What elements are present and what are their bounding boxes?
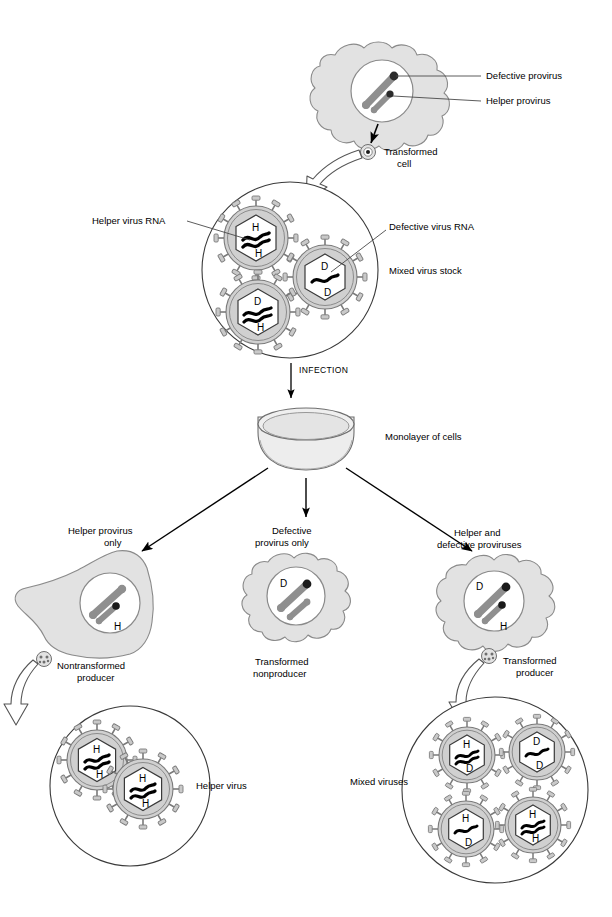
mixed-virus-stock-group: H H D D: [92, 182, 475, 358]
nontransformed-producer-group: Helper provirus only H Nontransformed: [4, 525, 153, 725]
label-nontransformed-producer-line1: Nontransformed: [57, 660, 125, 671]
label-defective-provirus-only-line2: provirus only: [255, 537, 309, 548]
mixed-viruses-pool-group: H D D D: [350, 697, 588, 883]
petri-dish-monolayer: [263, 413, 349, 440]
petri-dish-group: Monolayer of cells: [258, 408, 462, 470]
virion-label-top: H: [463, 739, 470, 750]
virion-label-bottom: H: [532, 833, 539, 844]
label-mixed-viruses: Mixed viruses: [350, 776, 408, 787]
virion-label-top: H: [139, 773, 146, 784]
virion-label-top: H: [462, 813, 469, 824]
helper-virus-pool-group: H H H H: [50, 706, 247, 866]
label-helper-virus-rna: Helper virus RNA: [92, 215, 166, 226]
label-helper-provirus: Helper provirus: [486, 95, 551, 106]
label-defective-virus-rna: Defective virus RNA: [389, 221, 475, 232]
hollow-arrow-left-producer-to-pool: [4, 660, 38, 725]
label-transformed-producer-line1: Transformed: [503, 655, 557, 666]
label-transformed-nonproducer-line1: Transformed: [255, 656, 309, 667]
nucleus-label-defective-middle: D: [280, 578, 287, 589]
label-transformed-nonproducer-line2: nonproducer: [253, 668, 306, 679]
label-helper-provirus-only-line1: Helper provirus: [68, 525, 133, 536]
virion-label-bottom: H: [96, 769, 103, 780]
nucleus-label-helper-left: H: [114, 621, 121, 632]
virion-label-bottom: D: [324, 287, 331, 298]
transformed-nonproducer-group: Defective provirus only D Transformed no…: [242, 525, 350, 679]
transformed-cell-group: Defective provirus Helper provirus Trans…: [310, 42, 562, 169]
label-helper-and-defective-line1: Helper and: [454, 527, 500, 538]
virion-label-top: H: [529, 809, 536, 820]
virion-label-bottom: D: [465, 837, 472, 848]
nucleus-label-helper-right: H: [500, 621, 507, 632]
budding-virion: [361, 145, 376, 160]
retrovirus-replication-diagram: Defective provirus Helper provirus Trans…: [0, 0, 612, 917]
virion-label-bottom: H: [257, 322, 264, 333]
label-monolayer-of-cells: Monolayer of cells: [385, 431, 462, 442]
label-defective-provirus-only-line1: Defective: [272, 525, 312, 536]
label-infection: INFECTION: [299, 365, 348, 375]
label-mixed-virus-stock: Mixed virus stock: [389, 265, 462, 276]
label-transformed-cell-line2: cell: [397, 158, 411, 169]
label-helper-virus: Helper virus: [196, 780, 247, 791]
nucleus-label-defective-right: D: [476, 581, 483, 592]
branch-arrow-left: [142, 468, 268, 551]
virion-label-bottom: H: [142, 798, 149, 809]
label-helper-provirus-only-line2: only: [104, 537, 122, 548]
infection-step: INFECTION: [291, 363, 348, 398]
virion-label-bottom: D: [466, 763, 473, 774]
budding-virion-right: [482, 649, 497, 664]
mixed-viruses-pool-circle: [402, 697, 588, 883]
virion-label-bottom: D: [536, 760, 543, 771]
virion-label-top: D: [321, 261, 328, 272]
label-nontransformed-producer-line2: producer: [77, 672, 115, 683]
label-defective-provirus: Defective provirus: [486, 70, 562, 81]
virion-label-top: H: [93, 744, 100, 755]
virion-label-top: D: [533, 736, 540, 747]
virion-label-bottom: H: [255, 248, 262, 259]
label-transformed-producer-line2: producer: [516, 667, 554, 678]
label-transformed-cell-line1: Transformed: [384, 146, 438, 157]
budding-virion-left: [37, 652, 52, 667]
label-helper-and-defective-line2: defective proviruses: [437, 539, 522, 550]
transformed-producer-group: Helper and defective proviruses D H Tran…: [436, 527, 556, 723]
virion-label-top: H: [252, 222, 259, 233]
virion-label-top: D: [254, 296, 261, 307]
